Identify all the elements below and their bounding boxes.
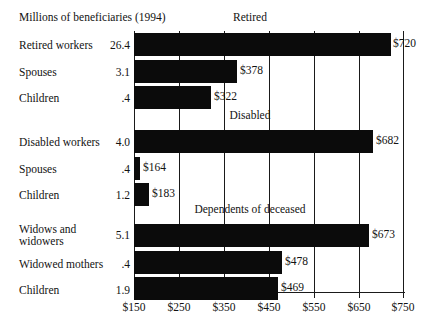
xtick-750	[403, 293, 404, 298]
xtick-650	[359, 293, 360, 298]
bar-value-disabled-children: $183	[152, 188, 175, 200]
bar-value-retired-children: $322	[214, 91, 237, 103]
bar-disabled-workers	[134, 130, 373, 153]
bar-retired-workers	[134, 33, 391, 56]
bar-value-widowed-mothers: $478	[285, 256, 308, 268]
gridline-750	[403, 31, 404, 293]
gridline-650	[359, 31, 360, 293]
bar-value-disabled-spouses: $164	[143, 162, 166, 174]
bar-value-disabled-workers: $682	[376, 135, 399, 147]
bar-value-retired-workers: $720	[393, 38, 416, 50]
plot-area	[134, 31, 404, 293]
xtick-label-150: $150	[112, 302, 156, 314]
xtick-label-750: $750	[381, 302, 425, 314]
bar-widowed-mothers	[134, 251, 282, 274]
beneficiaries-widows-and-widowers: 5.1	[18, 230, 130, 242]
beneficiaries-disabled-spouses: .4	[18, 164, 130, 176]
xtick-label-550: $550	[292, 302, 336, 314]
xtick-label-350: $350	[202, 302, 246, 314]
bar-value-deceased-children: $469	[281, 282, 304, 294]
xtick-label-250: $250	[157, 302, 201, 314]
bar-disabled-children	[134, 183, 149, 206]
xtick-label-450: $450	[247, 302, 291, 314]
beneficiaries-disabled-children: 1.2	[18, 190, 130, 202]
bar-value-widows-and-widowers: $673	[372, 229, 395, 241]
social-security-benefits-chart: Millions of beneficiaries (1994) Retired…	[0, 0, 434, 331]
bar-value-retired-spouses: $378	[240, 65, 263, 77]
chart-header-label: Millions of beneficiaries (1994)	[19, 12, 166, 24]
bar-deceased-children	[134, 277, 278, 300]
beneficiaries-widowed-mothers: .4	[18, 259, 130, 271]
beneficiaries-deceased-children: 1.9	[18, 285, 130, 297]
bar-widows-and-widowers	[134, 224, 369, 247]
group-title-retired: Retired	[190, 12, 310, 24]
beneficiaries-disabled-workers: 4.0	[18, 137, 130, 149]
xtick-550	[314, 293, 315, 298]
bar-retired-spouses	[134, 60, 237, 83]
bar-retired-children	[134, 86, 211, 109]
bar-disabled-spouses	[134, 157, 140, 180]
gridline-550	[314, 31, 315, 293]
beneficiaries-retired-workers: 26.4	[18, 40, 130, 52]
xtick-label-650: $650	[337, 302, 381, 314]
beneficiaries-retired-spouses: 3.1	[18, 67, 130, 79]
beneficiaries-retired-children: .4	[18, 93, 130, 105]
